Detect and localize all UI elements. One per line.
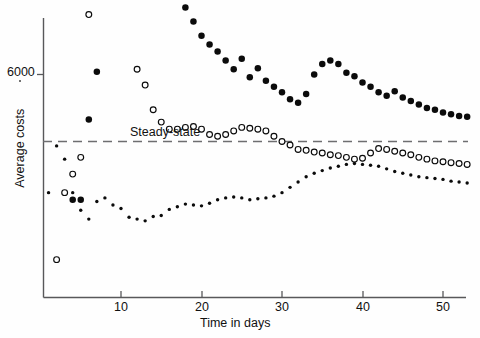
data-point <box>456 161 462 167</box>
data-point <box>385 167 388 170</box>
data-point <box>184 202 187 205</box>
data-point <box>208 202 211 205</box>
data-point <box>359 79 366 86</box>
data-point <box>223 132 229 138</box>
data-point <box>417 175 420 178</box>
data-point <box>400 150 406 156</box>
data-point <box>327 57 334 64</box>
data-point <box>377 164 380 167</box>
data-point <box>392 148 398 154</box>
data-point <box>54 257 60 263</box>
data-point <box>321 169 324 172</box>
data-point <box>303 147 309 153</box>
data-point <box>215 133 221 139</box>
data-point <box>152 215 155 218</box>
data-point <box>127 216 130 219</box>
data-point <box>288 186 291 189</box>
data-point <box>94 69 101 76</box>
data-point <box>192 203 195 206</box>
data-point <box>160 214 163 217</box>
data-point <box>279 89 286 96</box>
data-point <box>55 144 58 147</box>
data-point <box>408 98 415 105</box>
data-point <box>383 92 390 99</box>
data-point <box>296 180 299 183</box>
data-point <box>424 105 431 112</box>
series-small-filled-dots <box>47 144 469 222</box>
data-point <box>134 66 140 72</box>
plot-area <box>0 0 480 338</box>
data-point <box>335 153 341 159</box>
data-point <box>304 175 307 178</box>
y-tick-label-6000: 6000 <box>7 66 35 79</box>
data-point <box>240 196 243 199</box>
data-point <box>182 4 189 11</box>
data-point <box>360 155 366 161</box>
data-point <box>448 111 455 118</box>
data-point <box>440 159 446 165</box>
x-tick-label-30: 30 <box>275 301 289 314</box>
data-point <box>367 84 374 91</box>
data-point <box>353 162 356 165</box>
data-point <box>143 219 146 222</box>
data-point <box>295 147 301 153</box>
data-point <box>135 217 138 220</box>
data-point <box>150 107 156 113</box>
data-point <box>401 172 404 175</box>
data-point <box>393 170 396 173</box>
data-point <box>200 204 203 207</box>
data-point <box>457 180 460 183</box>
data-point <box>224 196 227 199</box>
data-point <box>368 150 374 156</box>
data-point <box>279 139 285 145</box>
data-point <box>376 146 382 152</box>
data-point <box>425 176 428 179</box>
data-point <box>344 154 350 160</box>
data-point <box>384 147 390 153</box>
x-axis-title: Time in days <box>200 317 270 330</box>
data-point <box>95 200 98 203</box>
data-point <box>47 191 50 194</box>
data-point <box>303 91 310 98</box>
data-point <box>280 191 283 194</box>
chart-figure: 6000 Average costs Time in days 10 20 30… <box>0 0 480 338</box>
data-point <box>216 198 219 201</box>
data-point <box>206 41 213 48</box>
data-point <box>433 177 436 180</box>
data-point <box>400 94 407 101</box>
data-point <box>142 82 148 88</box>
data-point <box>287 96 294 103</box>
data-point <box>79 209 82 212</box>
data-point <box>70 171 76 177</box>
data-point <box>343 69 350 76</box>
data-point <box>432 158 438 164</box>
data-point <box>222 57 229 64</box>
data-point <box>190 18 197 25</box>
data-point <box>239 55 246 62</box>
data-point <box>62 190 68 196</box>
data-point <box>337 164 340 167</box>
data-point <box>232 195 235 198</box>
data-point <box>351 73 358 80</box>
data-point <box>416 154 422 160</box>
data-point <box>311 71 318 78</box>
series-open-circles <box>54 12 470 263</box>
data-point <box>168 208 171 211</box>
data-point <box>345 163 348 166</box>
data-point <box>375 89 382 96</box>
data-point <box>272 194 275 197</box>
data-point <box>247 74 254 81</box>
data-point <box>319 61 326 68</box>
data-point <box>255 65 262 72</box>
data-point <box>263 77 270 84</box>
y-axis-title: Average costs <box>14 104 27 192</box>
data-point <box>441 178 444 181</box>
x-tick-label-50: 50 <box>436 301 450 314</box>
data-point <box>295 99 302 106</box>
data-point <box>271 133 277 139</box>
data-point <box>263 128 269 134</box>
data-point <box>198 32 205 39</box>
series-large-filled-circles <box>69 4 470 203</box>
data-point <box>255 126 261 132</box>
x-tick-label-40: 40 <box>356 301 370 314</box>
